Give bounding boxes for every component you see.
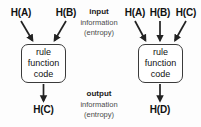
- output-caption-title: output: [87, 90, 112, 98]
- left-process-box[interactable]: rule function code: [21, 44, 66, 83]
- arrow-left-input-a: [21, 21, 33, 41]
- right-input-label-b: H(B): [150, 8, 170, 18]
- output-caption-entropy: (entropy): [84, 111, 114, 119]
- left-input-label-a: H(A): [11, 8, 31, 18]
- diagram-canvas: H(A) H(B) rule function code H(C) input …: [0, 0, 201, 127]
- right-process-line-2: function: [145, 58, 177, 69]
- right-output-label-d: H(D): [150, 105, 170, 115]
- arrow-right-input-c: [175, 21, 186, 41]
- left-input-label-b: H(B): [56, 8, 76, 18]
- output-caption-information: information: [80, 101, 117, 109]
- right-process-line-1: rule: [153, 47, 168, 58]
- left-output-label-c: H(C): [33, 105, 53, 115]
- right-input-label-a: H(A): [125, 8, 145, 18]
- left-process-line-2: function: [28, 58, 60, 69]
- arrow-left-input-b: [55, 21, 67, 41]
- input-caption-title: input: [89, 8, 109, 16]
- right-process-line-3: code: [151, 69, 171, 80]
- right-process-box[interactable]: rule function code: [138, 44, 183, 83]
- arrow-right-input-a: [135, 21, 146, 41]
- right-input-label-c: H(C): [176, 8, 196, 18]
- left-process-line-3: code: [34, 69, 54, 80]
- input-caption-information: information: [80, 19, 117, 27]
- left-process-line-1: rule: [36, 47, 51, 58]
- input-caption-entropy: (entropy): [84, 29, 114, 37]
